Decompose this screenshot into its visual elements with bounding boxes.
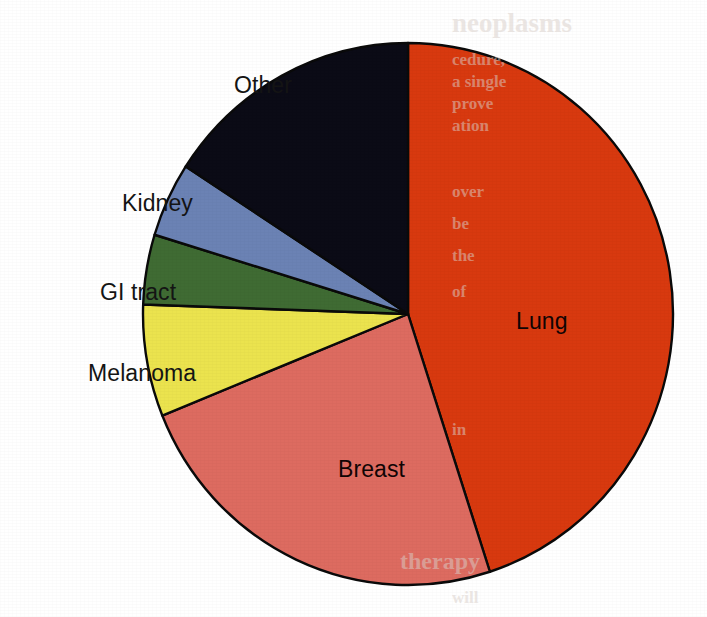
pie-label-kidney: Kidney — [122, 190, 193, 216]
pie-label-other: Other — [234, 72, 292, 98]
pie-chart-canvas — [0, 0, 707, 617]
pie-label-melanoma: Melanoma — [88, 360, 196, 386]
pie-label-breast: Breast — [338, 456, 405, 482]
pie-chart-figure: neoplasmscedure,a singleproveationoverbe… — [0, 0, 707, 617]
pie-slice-group — [143, 43, 673, 585]
pie-label-gi-tract: GI tract — [100, 279, 176, 305]
pie-label-lung: Lung — [516, 308, 568, 334]
